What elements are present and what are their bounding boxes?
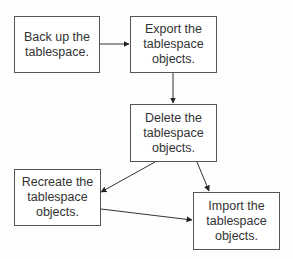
arrow-delete-to-import <box>197 162 209 191</box>
step-delete-objects: Delete the tablespace objects. <box>130 104 217 162</box>
step-export-objects: Export the tablespace objects. <box>130 16 217 73</box>
arrow-delete-to-recreate <box>101 162 155 192</box>
step-backup-tablespace: Back up the tablespace. <box>14 16 100 73</box>
step-recreate-objects: Recreate the tablespace objects. <box>14 169 101 226</box>
arrow-recreate-to-import <box>101 209 192 220</box>
flowchart-canvas: Back up the tablespace. Export the table… <box>0 0 293 259</box>
step-import-objects: Import the tablespace objects. <box>193 192 280 250</box>
